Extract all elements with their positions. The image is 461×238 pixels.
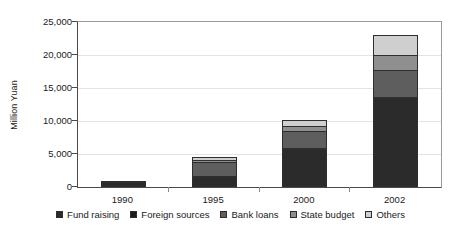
x-tick-label: 2002 [384,194,405,205]
legend-label: Bank loans [231,210,278,220]
legend-label: Others [376,210,405,220]
legend-swatch-icon [56,211,63,218]
bar-segment [101,181,146,182]
stacked-bar-chart: Million Yuan 05,00010,00015,00020,00025,… [0,0,461,238]
legend-item[interactable]: Foreign sources [130,210,209,220]
bar-segment [192,160,237,162]
bar-segment [373,70,418,97]
y-tick-label: 5,000 [12,148,72,159]
legend-swatch-icon [290,211,297,218]
legend-item[interactable]: Bank loans [220,210,278,220]
legend-swatch-icon [130,211,137,218]
bar-segment [282,120,327,127]
bar-segment [373,55,418,70]
bar-1995 [192,22,237,187]
bar-segment [192,177,237,187]
y-tick-label: 20,000 [12,49,72,60]
legend-label: Fund raising [67,210,119,220]
bar-segment [282,148,327,149]
y-tick-label: 25,000 [12,16,72,27]
legend-item[interactable]: Others [365,210,405,220]
legend-label: Foreign sources [141,210,209,220]
bar-segment [192,157,237,160]
legend-item[interactable]: State budget [290,210,355,220]
legend-item[interactable]: Fund raising [56,210,119,220]
bar-2002 [373,22,418,187]
bar-segment [282,126,327,131]
x-tick-label: 1990 [112,194,133,205]
y-tick-label: 15,000 [12,82,72,93]
x-tick-mark [349,187,350,192]
x-tick-mark [259,187,260,192]
legend-swatch-icon [365,211,372,218]
bar-segment [192,176,237,177]
bar-segment [282,149,327,187]
x-tick-mark [168,187,169,192]
bar-segment [373,35,418,56]
bar-1990 [101,22,146,187]
y-tick-label: 10,000 [12,115,72,126]
bar-segment [192,162,237,176]
y-tick-label: 0 [12,181,72,192]
plot-area [77,21,442,188]
x-tick-label: 2000 [293,194,314,205]
bar-segment [373,97,418,98]
chart-legend: Fund raisingForeign sourcesBank loansSta… [0,210,461,220]
bar-segment [282,131,327,148]
legend-label: State budget [301,210,355,220]
bar-segment [373,98,418,187]
legend-swatch-icon [220,211,227,218]
bar-2000 [282,22,327,187]
x-tick-label: 1995 [203,194,224,205]
bar-segment [101,182,146,187]
y-axis-title: Million Yuan [6,50,22,160]
